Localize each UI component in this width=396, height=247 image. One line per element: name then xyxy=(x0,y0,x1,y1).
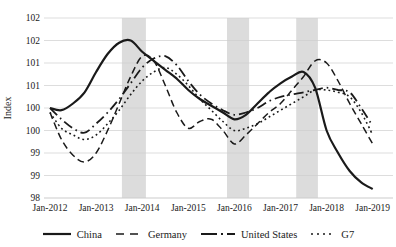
chart-legend: China Germany United States G7 xyxy=(0,224,396,244)
y-tick-label: 99 xyxy=(31,148,41,158)
legend-item-china: China xyxy=(42,229,102,240)
legend-label: United States xyxy=(241,229,297,240)
x-tick-label: Jan-2017 xyxy=(263,203,298,213)
legend-line-sample-dashed xyxy=(115,230,143,238)
legend-label: China xyxy=(77,229,102,240)
y-tick-label: 102 xyxy=(26,36,41,46)
legend-label: Germany xyxy=(148,229,187,240)
legend-item-g7: G7 xyxy=(310,229,354,240)
legend-line-sample-solid xyxy=(42,230,72,238)
y-axis-title: Index xyxy=(2,97,13,120)
y-tick-label: 100 xyxy=(26,103,41,113)
x-tick-label: Jan-2014 xyxy=(125,203,160,213)
cli-line-chart: 989999100100101101102102Jan-2012Jan-2013… xyxy=(0,0,396,247)
x-tick-label: Jan-2018 xyxy=(309,203,344,213)
x-tick-label: Jan-2016 xyxy=(217,203,252,213)
plot-area: 989999100100101101102102Jan-2012Jan-2013… xyxy=(0,0,396,247)
legend-line-sample-dashdot xyxy=(200,230,236,238)
y-tick-label: 99 xyxy=(31,171,41,181)
x-tick-label: Jan-2013 xyxy=(79,203,114,213)
y-tick-label: 102 xyxy=(26,13,41,23)
legend-label: G7 xyxy=(341,229,354,240)
x-tick-label: Jan-2015 xyxy=(171,203,206,213)
y-tick-label: 101 xyxy=(26,81,41,91)
legend-item-united-states: United States xyxy=(200,229,297,240)
series-line-china xyxy=(50,40,373,189)
x-tick-label: Jan-2019 xyxy=(355,203,390,213)
y-tick-label: 101 xyxy=(26,58,41,68)
series-line-germany xyxy=(50,55,373,162)
y-tick-label: 98 xyxy=(31,193,41,203)
legend-item-germany: Germany xyxy=(115,229,187,240)
y-tick-label: 100 xyxy=(26,126,41,136)
legend-line-sample-dotted xyxy=(310,230,336,238)
x-tick-label: Jan-2012 xyxy=(33,203,68,213)
